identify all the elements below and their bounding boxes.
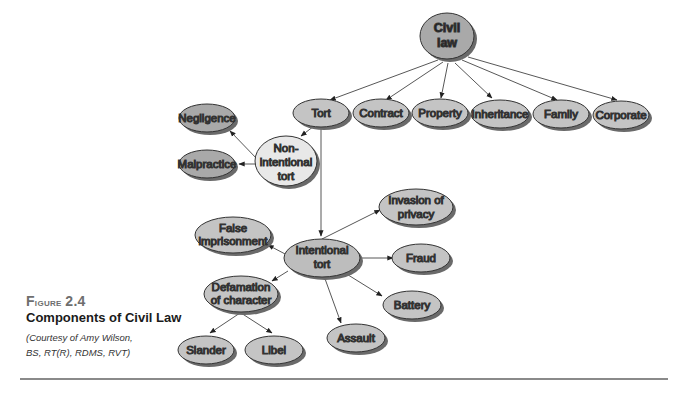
node-libel: Libel xyxy=(245,336,306,367)
node-label: Inheritance xyxy=(472,108,529,120)
figure-caption: Figure 2.4 Components of Civil Law (Cour… xyxy=(26,293,186,360)
figure-number: Figure 2.4 xyxy=(26,293,186,309)
node-invasion-of-privacy: Invasion of privacy xyxy=(379,189,456,228)
node-label: Invasion of xyxy=(388,194,444,206)
node-label: Slander xyxy=(186,344,226,356)
node-label: Tort xyxy=(311,107,331,119)
node-label: intentional xyxy=(260,156,312,168)
node-civil-law: Civil law xyxy=(420,13,477,62)
node-slander: Slander xyxy=(178,336,237,367)
node-label: False xyxy=(219,222,247,234)
node-label: Contract xyxy=(359,107,403,119)
node-corporate: Corporate xyxy=(593,101,652,132)
edge-intentional-battery xyxy=(345,273,382,296)
node-label: Assault xyxy=(337,332,376,344)
node-label: Non- xyxy=(274,142,299,154)
figure-credit: (Courtesy of Amy Wilson, BS, RT(R), RDMS… xyxy=(26,330,186,360)
edge-intentional-assault xyxy=(324,276,341,323)
edge-intentional-defamation xyxy=(272,271,288,281)
edge-intentional-false xyxy=(268,245,287,255)
node-label: Malpractice xyxy=(178,158,237,170)
node-contract: Contract xyxy=(353,99,412,130)
figure-credit-line: BS, RT(R), RDMS, RVT) xyxy=(26,345,186,360)
node-label: Intentional xyxy=(295,244,348,256)
node-label: tort xyxy=(278,170,295,182)
node-label: Civil xyxy=(434,21,460,35)
edge-civil-property xyxy=(441,63,448,98)
node-intentional-tort: Intentional tort xyxy=(284,239,363,280)
caption-divider xyxy=(20,378,668,380)
node-label: law xyxy=(437,36,457,50)
node-defamation-of-character: Defamation of character xyxy=(204,276,281,315)
edge-civil-family xyxy=(462,60,557,100)
node-malpractice: Malpractice xyxy=(178,150,238,181)
edge-intentional-invasion xyxy=(322,210,380,239)
edge-defamation-libel xyxy=(241,313,272,333)
figure-title: Components of Civil Law xyxy=(26,310,186,326)
figure-credit-line: (Courtesy of Amy Wilson, xyxy=(26,330,186,345)
node-label: Negligence xyxy=(178,112,236,124)
figure-number-prefix: F xyxy=(26,293,35,309)
node-inheritance: Inheritance xyxy=(471,100,532,131)
edge-civil-contract xyxy=(386,62,443,100)
node-label: Defamation xyxy=(212,281,271,293)
node-fraud: Fraud xyxy=(392,244,453,275)
node-non-intentional-tort: Non- intentional tort xyxy=(255,136,320,189)
node-label: Battery xyxy=(394,299,431,311)
node-label: Corporate xyxy=(595,109,646,121)
edge-nonintentional-negligence xyxy=(230,131,258,160)
figure-number-value: 2.4 xyxy=(65,293,85,309)
edge-civil-tort xyxy=(330,60,438,100)
node-property: Property xyxy=(412,99,471,130)
node-family: Family xyxy=(533,100,592,131)
node-label: Family xyxy=(544,108,578,120)
node-label: Property xyxy=(418,107,462,119)
node-label: of character xyxy=(211,294,272,306)
edge-defamation-slander xyxy=(210,313,240,333)
node-battery: Battery xyxy=(383,291,444,322)
node-negligence: Negligence xyxy=(178,104,238,135)
node-tort: Tort xyxy=(293,99,352,130)
node-label: Libel xyxy=(262,344,286,356)
node-label: privacy xyxy=(398,208,435,220)
nodes: Civil law Tort Contract Property Inherit… xyxy=(178,13,652,367)
node-label: Fraud xyxy=(406,252,436,264)
node-false-imprisonment: False imprisonment xyxy=(195,217,274,256)
node-label: tort xyxy=(314,258,331,270)
node-label: imprisonment xyxy=(198,235,268,247)
figure-number-rest: igure xyxy=(35,295,62,309)
node-assault: Assault xyxy=(327,324,388,355)
edge-civil-inheritance xyxy=(455,63,492,98)
